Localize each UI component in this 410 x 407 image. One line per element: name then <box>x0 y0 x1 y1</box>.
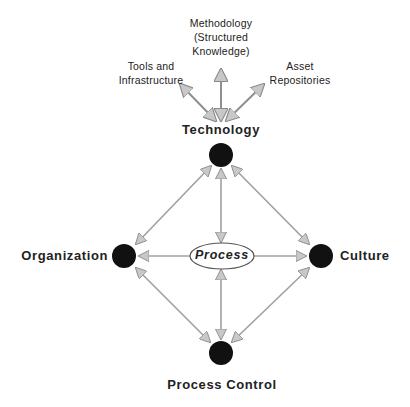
tools-line1: Tools and <box>108 59 194 73</box>
diagram-canvas <box>0 0 410 407</box>
methodology-line3: Knowledge) <box>175 44 267 58</box>
node-technology <box>209 143 233 167</box>
label-process-control: Process Control <box>161 377 283 392</box>
node-organization <box>112 244 136 268</box>
arrow-technology-culture <box>232 166 309 244</box>
arrow-technology-organization <box>136 166 211 244</box>
node-process-control <box>209 341 233 365</box>
label-methodology: Methodology (Structured Knowledge) <box>175 16 267 58</box>
asset-line1: Asset <box>262 59 338 73</box>
label-process: Process <box>192 248 252 262</box>
arrow-assets-technology <box>226 84 264 121</box>
arrow-culture-process-control <box>232 268 309 342</box>
label-organization: Organization <box>12 248 108 263</box>
node-culture <box>309 244 333 268</box>
label-tools: Tools and Infrastructure <box>108 59 194 87</box>
label-culture: Culture <box>340 248 400 263</box>
methodology-line1: Methodology <box>175 16 267 30</box>
label-technology: Technology <box>171 122 271 137</box>
label-assets: Asset Repositories <box>262 59 338 87</box>
arrow-organization-process-control <box>136 268 210 342</box>
tools-line2: Infrastructure <box>108 73 194 87</box>
methodology-line2: (Structured <box>175 30 267 44</box>
asset-line2: Repositories <box>262 73 338 87</box>
arrow-tools-technology <box>180 84 216 121</box>
